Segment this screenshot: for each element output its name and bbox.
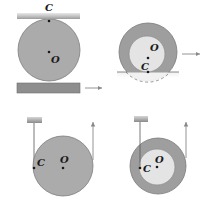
label-c: C: [45, 2, 53, 13]
panel-bottom-left: C O: [27, 117, 93, 196]
bottom-plate: [17, 83, 80, 93]
contact-point-dot: [33, 167, 36, 170]
label-o: O: [60, 154, 69, 165]
panel-top-right: O C: [117, 23, 200, 85]
center-point-dot: [147, 57, 150, 60]
kinematics-diagram: C O O C C O C O: [0, 0, 211, 209]
top-plate: [17, 13, 80, 19]
label-c: C: [141, 61, 149, 72]
contact-point-dot: [139, 167, 142, 170]
center-point-dot: [156, 166, 159, 169]
ground-mask: [117, 73, 179, 85]
center-point-dot: [48, 51, 51, 54]
label-o: O: [155, 154, 164, 165]
ceiling-support: [134, 116, 148, 122]
label-c: C: [37, 157, 45, 168]
ceiling-support: [27, 117, 42, 123]
panel-bottom-right: C O: [130, 116, 186, 194]
label-o: O: [150, 42, 159, 53]
solid-disk: [18, 19, 80, 81]
panel-top-left: C O: [17, 2, 102, 93]
label-o: O: [51, 54, 60, 65]
label-c: C: [143, 163, 151, 174]
center-point-dot: [62, 167, 65, 170]
contact-point-dot: [48, 20, 51, 23]
